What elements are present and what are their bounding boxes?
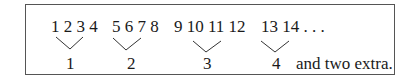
group-2-numbers: 5 6 7 8 bbox=[112, 18, 159, 35]
group-4-numbers: 13 14 . . . bbox=[261, 18, 325, 35]
group-1-label: 1 bbox=[66, 55, 75, 72]
bracket-group-1 bbox=[56, 37, 83, 49]
group-3-label: 3 bbox=[203, 55, 212, 72]
bracket-group-3 bbox=[193, 41, 221, 52]
bracket-group-2 bbox=[113, 38, 141, 50]
remainder-note: and two extra. bbox=[296, 55, 393, 72]
group-2-label: 2 bbox=[127, 55, 136, 72]
group-3-numbers: 9 10 11 12 bbox=[174, 18, 246, 35]
group-4-label: 4 bbox=[272, 55, 281, 72]
group-1-numbers: 1 2 3 4 bbox=[51, 18, 98, 35]
bracket-group-4 bbox=[261, 41, 289, 52]
